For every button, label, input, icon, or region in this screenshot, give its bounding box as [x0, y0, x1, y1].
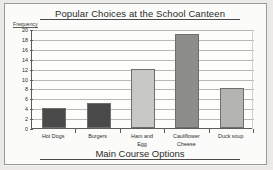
x-axis-title: Main Course Options	[40, 148, 240, 160]
chart-title: Popular Choices at the School Canteen	[40, 8, 240, 20]
x-category-label: Burgers	[75, 133, 119, 141]
plot-right-edge	[252, 30, 253, 129]
x-category-label: Ham andEgg	[120, 133, 164, 149]
bar	[131, 69, 155, 128]
y-tick-mark	[30, 109, 33, 110]
bar	[175, 34, 199, 128]
y-tick-mark	[30, 70, 33, 71]
y-tick-label: 10	[12, 77, 28, 83]
y-tick-label: 0	[12, 126, 28, 132]
gridline	[32, 30, 254, 31]
bar	[87, 103, 111, 128]
bar	[42, 108, 66, 128]
y-tick-label: 6	[12, 96, 28, 102]
y-tick-label: 18	[12, 37, 28, 43]
y-tick-mark	[30, 119, 33, 120]
y-tick-mark	[30, 99, 33, 100]
page-margin-right	[267, 0, 273, 170]
x-tick-mark	[253, 129, 254, 133]
y-tick-mark	[30, 30, 33, 31]
y-tick-label: 12	[12, 67, 28, 73]
page-margin-bottom	[0, 166, 273, 170]
y-tick-label: 8	[12, 86, 28, 92]
y-tick-mark	[30, 40, 33, 41]
y-tick-mark	[30, 60, 33, 61]
plot-area	[31, 30, 253, 129]
y-tick-label: 2	[12, 116, 28, 122]
x-category-label: Hot Dogs	[31, 133, 75, 141]
y-tick-label: 16	[12, 47, 28, 53]
x-category-label: CauliflowerCheese	[164, 133, 208, 149]
gridline	[32, 40, 254, 41]
gridline	[32, 60, 254, 61]
x-category-label: Duck soup	[209, 133, 253, 141]
y-tick-label: 14	[12, 57, 28, 63]
y-tick-label: 4	[12, 106, 28, 112]
chart-screenshot: Popular Choices at the School Canteen Fr…	[0, 0, 273, 170]
y-tick-mark	[30, 129, 33, 130]
y-tick-mark	[30, 50, 33, 51]
gridline	[32, 50, 254, 51]
bar	[220, 88, 244, 128]
y-tick-mark	[30, 89, 33, 90]
y-tick-label: 20	[12, 27, 28, 33]
y-tick-mark	[30, 80, 33, 81]
